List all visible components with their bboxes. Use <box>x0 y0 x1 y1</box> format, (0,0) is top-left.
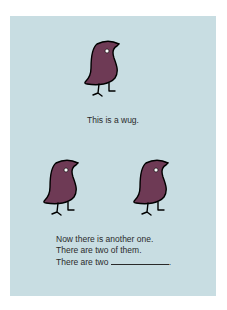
blank-suffix: . <box>169 257 171 267</box>
caption-line-3-text: There are two <box>56 257 108 267</box>
caption-line-3: There are two . <box>56 256 171 268</box>
caption-line-2: There are two of them. <box>56 245 171 256</box>
wug-bird-right-icon <box>132 159 182 219</box>
wug-bird-icon <box>83 40 133 100</box>
caption-line-1: Now there is another one. <box>56 234 171 245</box>
wug-test-card: This is a wug. Now there is another one.… <box>10 16 216 296</box>
top-caption: This is a wug. <box>87 115 139 126</box>
bottom-caption: Now there is another one. There are two … <box>56 234 171 268</box>
answer-blank <box>111 256 169 265</box>
wug-bird-left-icon <box>42 159 92 219</box>
